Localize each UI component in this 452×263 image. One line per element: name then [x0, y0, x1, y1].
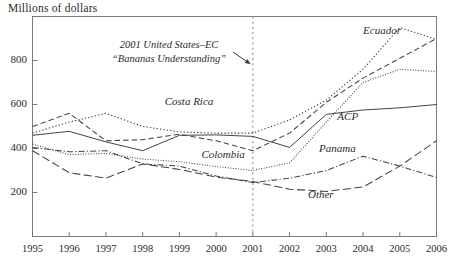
x-tick-label: 2003: [306, 243, 346, 254]
series-line-costa-rica: [33, 28, 437, 134]
y-tick-label: 400: [1, 141, 27, 153]
x-tick-label: 1996: [49, 243, 89, 254]
y-tick-label: 200: [1, 185, 27, 197]
series-line-colombia: [33, 39, 437, 151]
x-tick-label: 1998: [123, 243, 163, 254]
y-tick-label: 600: [1, 97, 27, 109]
annotation-line-2: “Bananas Understanding”: [112, 52, 226, 66]
series-line-acp: [33, 105, 437, 151]
annotation-line-1: 2001 United States–EC: [112, 38, 226, 52]
annotation-arrow-head: [245, 59, 251, 64]
y-tick-label: 800: [1, 53, 27, 65]
x-tick-label: 2004: [343, 243, 383, 254]
plot-frame: [33, 17, 437, 237]
series-label-other: Other: [308, 188, 334, 200]
series-label-colombia: Colombia: [201, 148, 244, 160]
x-tick-label: 1997: [86, 243, 126, 254]
x-tick-label: 1999: [159, 243, 199, 254]
x-tick-label: 2006: [417, 243, 452, 254]
x-tick-label: 2005: [380, 243, 420, 254]
bananas-understanding-annotation: 2001 United States–EC“Bananas Understand…: [112, 38, 226, 66]
series-label-panama: Panama: [319, 142, 356, 154]
series-label-ecuador: Ecuador: [363, 24, 401, 36]
x-tick-label: 2001: [233, 243, 273, 254]
x-tick-label: 2000: [196, 243, 236, 254]
x-tick-label: 1995: [13, 243, 53, 254]
series-label-costa-rica: Costa Rica: [165, 95, 214, 107]
x-tick-label: 2002: [270, 243, 310, 254]
series-label-acp: ACP: [337, 110, 358, 122]
